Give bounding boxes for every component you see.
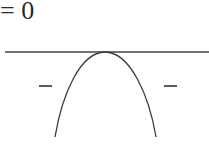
sign-diagram (0, 0, 209, 159)
downward-parabola-curve (55, 52, 156, 137)
